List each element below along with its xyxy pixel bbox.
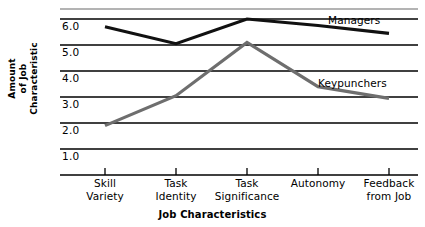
x-tick-label-task-significance-line-1: Task <box>207 177 287 190</box>
y-tick-label-3: 3.0 <box>62 98 79 110</box>
x-tick-label-autonomy-line-1: Autonomy <box>278 177 358 190</box>
x-tick-label-feedback-from-job-line-2: from Job <box>349 190 425 203</box>
y-tick-label-1: 1.0 <box>62 150 79 162</box>
x-tick-label-feedback-from-job-line-1: Feedback <box>349 177 425 190</box>
x-tick-label-task-identity-line-1: Task <box>136 177 216 190</box>
series-label-managers: Managers <box>328 14 380 26</box>
x-tick-label-skill-variety-line-1: Skill <box>65 177 145 190</box>
series-label-keypunchers: Keypunchers <box>318 77 387 89</box>
x-tick-label-task-significance: Task Significance <box>207 177 287 202</box>
x-tick-label-task-significance-line-2: Significance <box>207 190 287 203</box>
x-tick-label-feedback-from-job: Feedback from Job <box>349 177 425 202</box>
y-tick-label-4: 4.0 <box>62 72 79 84</box>
x-tick-label-skill-variety-line-2: Variety <box>65 190 145 203</box>
x-axis-title: Job Characteristics <box>0 209 425 220</box>
x-tick-label-task-identity-line-2: Identity <box>136 190 216 203</box>
x-tick-label-skill-variety: Skill Variety <box>65 177 145 202</box>
x-tick-label-task-identity: Task Identity <box>136 177 216 202</box>
y-tick-label-2: 2.0 <box>62 124 79 136</box>
x-tick-label-autonomy: Autonomy <box>278 177 358 190</box>
line-chart: Amount of Job Characteristic 6.0 5.0 4.0… <box>0 0 425 227</box>
y-tick-label-6: 6.0 <box>62 20 79 32</box>
y-tick-label-5: 5.0 <box>62 46 79 58</box>
